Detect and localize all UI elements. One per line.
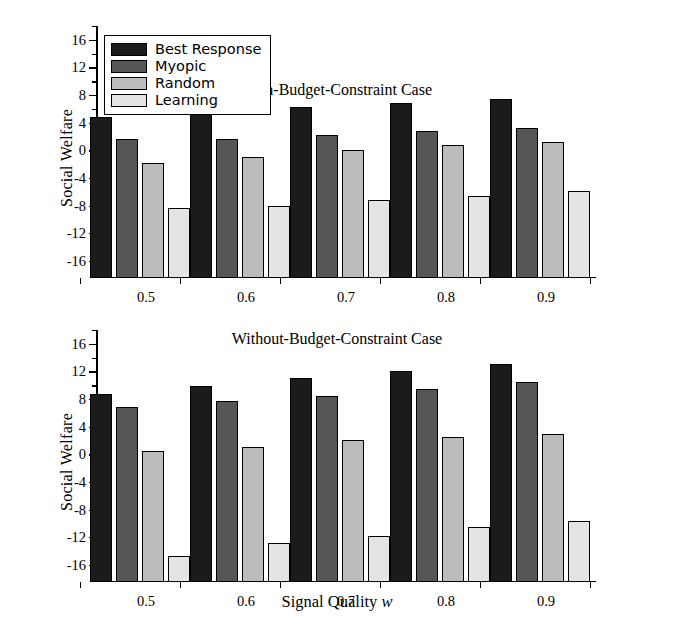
y-tick-label: -16 xyxy=(67,252,86,269)
bar xyxy=(290,107,312,278)
bar xyxy=(242,157,264,279)
bar xyxy=(568,521,590,582)
bar xyxy=(290,378,312,582)
chart-panel-without-budget: Social Welfare Without-Budget-Constraint… xyxy=(0,312,674,612)
x-axis-title-symbol: w xyxy=(381,592,392,611)
y-tick-label: -16 xyxy=(67,556,86,573)
y-tick-label: 12 xyxy=(72,363,87,380)
bar xyxy=(468,196,490,278)
bar xyxy=(190,113,212,278)
legend-item: Best Response xyxy=(111,41,261,58)
bar xyxy=(416,131,438,278)
bar xyxy=(342,440,364,582)
y-tick xyxy=(89,371,96,372)
x-tick xyxy=(280,278,281,284)
y-tick-label: 12 xyxy=(72,59,87,76)
x-tick xyxy=(480,278,481,284)
bar xyxy=(116,139,138,278)
bar xyxy=(190,386,212,582)
bar xyxy=(242,447,264,582)
legend-swatch xyxy=(111,77,147,90)
y-axis-label-bottom: Social Welfare xyxy=(58,413,76,511)
bar xyxy=(216,401,238,582)
figure-root: Social Welfare With-Budget-Constraint Ca… xyxy=(0,0,674,625)
y-tick xyxy=(89,67,96,68)
legend-label: Learning xyxy=(155,93,218,108)
y-tick-label: 16 xyxy=(72,31,87,48)
x-tick xyxy=(590,582,591,588)
y-tick-minor xyxy=(92,109,97,110)
x-tick xyxy=(180,582,181,588)
legend-swatch xyxy=(111,94,147,107)
legend-swatch xyxy=(111,43,147,56)
legend-item: Random xyxy=(111,75,261,92)
legend-item: Myopic xyxy=(111,58,261,75)
bar xyxy=(316,396,338,582)
y-tick-label: -12 xyxy=(67,225,86,242)
bar xyxy=(516,128,538,278)
y-tick-label: -4 xyxy=(74,473,86,490)
bar xyxy=(542,434,564,582)
chart-panel-with-budget: Social Welfare With-Budget-Constraint Ca… xyxy=(0,8,674,308)
bar xyxy=(116,407,138,582)
x-tick xyxy=(280,582,281,588)
y-tick-label: 4 xyxy=(79,418,86,435)
y-axis-label-top: Social Welfare xyxy=(58,109,76,207)
y-tick-label: 8 xyxy=(79,391,86,408)
bar xyxy=(316,135,338,278)
bar xyxy=(442,437,464,582)
x-tick xyxy=(480,582,481,588)
bar xyxy=(468,527,490,582)
bar xyxy=(168,208,190,278)
y-tick xyxy=(89,344,96,345)
y-tick-label: 4 xyxy=(79,114,86,131)
x-tick xyxy=(380,582,381,588)
legend-label: Best Response xyxy=(155,42,261,57)
bar xyxy=(368,200,390,278)
x-axis-title: Signal Quality w xyxy=(0,592,674,612)
x-tick-label: 0.8 xyxy=(437,289,455,306)
bar xyxy=(142,451,164,582)
y-tick-minor xyxy=(92,385,97,386)
y-tick-label: -8 xyxy=(74,501,86,518)
y-tick-minor xyxy=(92,81,97,82)
bar xyxy=(168,556,190,582)
legend-swatch xyxy=(111,60,147,73)
bar xyxy=(516,382,538,582)
plot-area-bottom: 1612840-4-8-12-160.50.60.70.80.9 xyxy=(96,330,596,582)
bar xyxy=(542,142,564,278)
y-tick-label: 0 xyxy=(79,142,86,159)
y-tick xyxy=(89,40,96,41)
bar xyxy=(142,163,164,278)
x-tick-label: 0.5 xyxy=(137,289,155,306)
x-axis-title-text: Signal Quality xyxy=(282,592,382,611)
y-tick xyxy=(89,95,96,96)
bar xyxy=(416,389,438,582)
x-tick-label: 0.6 xyxy=(237,289,255,306)
bar xyxy=(90,117,112,278)
y-tick-label: -8 xyxy=(74,197,86,214)
bar xyxy=(268,206,290,278)
y-tick-label: -12 xyxy=(67,529,86,546)
x-tick xyxy=(380,278,381,284)
y-tick-label: 8 xyxy=(79,87,86,104)
bar xyxy=(268,543,290,582)
y-tick-label: -4 xyxy=(74,169,86,186)
x-tick xyxy=(80,278,81,284)
y-tick-minor xyxy=(92,26,97,27)
y-tick-minor xyxy=(92,330,97,331)
bar xyxy=(216,139,238,278)
bar xyxy=(490,364,512,582)
bar xyxy=(568,191,590,278)
y-tick-label: 0 xyxy=(79,446,86,463)
y-tick-minor xyxy=(92,358,97,359)
y-tick-label: 16 xyxy=(72,335,87,352)
bar xyxy=(342,150,364,278)
legend-label: Myopic xyxy=(155,59,206,74)
bar xyxy=(490,99,512,279)
legend-label: Random xyxy=(155,76,215,91)
bar xyxy=(442,145,464,278)
bar xyxy=(390,103,412,278)
bar xyxy=(90,394,112,582)
x-tick-label: 0.7 xyxy=(337,289,355,306)
